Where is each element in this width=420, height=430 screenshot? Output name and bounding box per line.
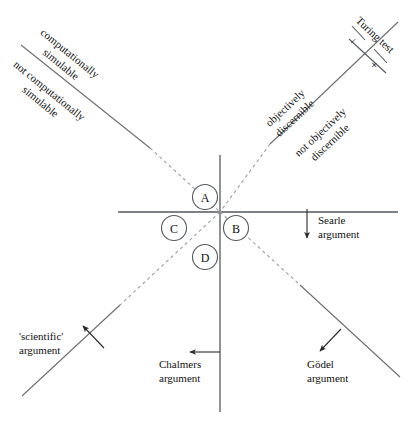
label-scientific-line2: argument: [19, 344, 63, 358]
label-searle-line1: Searle: [318, 214, 359, 228]
turing-minus-sign: −: [346, 33, 361, 48]
discernibility-axis-dashed: [220, 144, 270, 212]
quadrant-label-d: D: [201, 251, 210, 265]
godel-arrow: [320, 329, 341, 351]
label-godel-line2: argument: [307, 372, 348, 386]
turing-plus-sign: +: [367, 57, 382, 72]
argument-space-diagram: − + A B C D computationally simulable no…: [0, 0, 420, 430]
label-godel-line1: Gödel: [307, 358, 348, 372]
quadrant-label-c: C: [170, 222, 178, 236]
quadrant-label-b: B: [232, 222, 240, 236]
label-chalmers-line1: Chalmers: [159, 358, 201, 372]
label-searle-line2: argument: [318, 228, 359, 242]
label-chalmers-line2: argument: [159, 372, 201, 386]
quadrant-label-a: A: [201, 191, 210, 205]
label-scientific-line1: 'scientific': [19, 330, 63, 344]
label-scientific-argument: 'scientific' argument: [19, 330, 63, 358]
label-godel-argument: Gödel argument: [307, 358, 348, 386]
label-chalmers-argument: Chalmers argument: [159, 358, 201, 386]
label-searle-argument: Searle argument: [318, 214, 359, 242]
